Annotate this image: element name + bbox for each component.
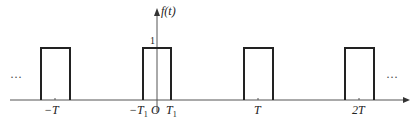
tick-label-T1: T1	[166, 103, 177, 119]
tick-label-2T: 2T	[352, 103, 365, 118]
tick-label-minus-T1: −T1	[129, 103, 148, 119]
pulse-T	[244, 48, 273, 100]
tick-label-minus-T: −T	[44, 103, 59, 118]
origin-label: O	[151, 103, 160, 118]
tick-label-T: T	[254, 103, 261, 118]
pulse-2T	[345, 48, 374, 100]
pulse-minus-T	[41, 48, 70, 100]
amplitude-label: 1	[150, 35, 155, 46]
x-axis-arrow-icon	[403, 97, 410, 103]
y-axis-label: f(t)	[161, 4, 176, 19]
y-axis-arrow-icon	[154, 8, 160, 16]
ellipsis-left: ···	[10, 70, 22, 85]
pulse-train-diagram: f(t) 1 ··· ··· −T −T1 O T1 T 2T	[0, 0, 411, 124]
diagram-graphics	[0, 0, 411, 124]
ellipsis-right: ···	[386, 70, 398, 85]
